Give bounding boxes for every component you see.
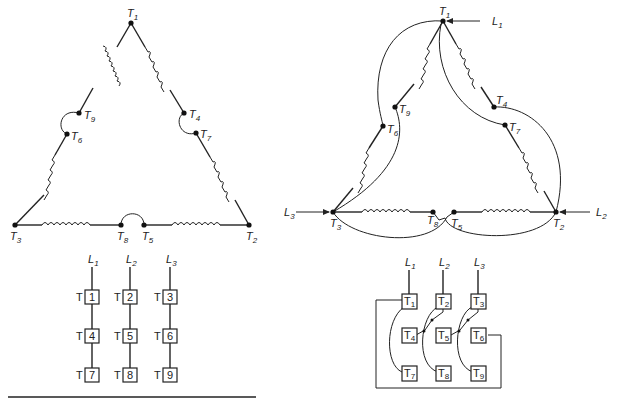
label-left-t2: T2 bbox=[246, 230, 258, 245]
label-left-t5: T5 bbox=[142, 230, 154, 245]
wiring-diagram: T1 T2 T3 T4 T5 T6 T7 T8 T9 L1 L2 L3 T T … bbox=[0, 0, 617, 403]
left-table-l2: L2 bbox=[126, 253, 137, 268]
terminal-5: 5 bbox=[127, 330, 133, 342]
t-prefix: T bbox=[154, 291, 161, 303]
label-left-t8: T8 bbox=[117, 230, 129, 245]
label-right-l3: L3 bbox=[284, 206, 295, 221]
left-connection-table: L1 L2 L3 T T T T T T T T T 1 4 7 2 5 8 3… bbox=[76, 253, 177, 382]
label-left-t3: T3 bbox=[10, 230, 22, 245]
t-prefix: T bbox=[154, 330, 161, 342]
label-left-t6: T6 bbox=[71, 130, 83, 145]
right-table-l1: L1 bbox=[405, 256, 416, 271]
label-right-t3: T3 bbox=[330, 217, 342, 232]
left-table-l3: L3 bbox=[166, 253, 177, 268]
label-right-t2: T2 bbox=[553, 217, 565, 232]
terminal-1: 1 bbox=[89, 291, 95, 303]
t-prefix: T bbox=[76, 369, 83, 381]
left-table-l1: L1 bbox=[88, 253, 99, 268]
terminal-6: 6 bbox=[167, 330, 173, 342]
label-left-t9: T9 bbox=[84, 109, 96, 124]
t-prefix: T bbox=[76, 330, 83, 342]
label-right-t5: T5 bbox=[451, 217, 463, 232]
t-prefix: T bbox=[76, 291, 83, 303]
terminal-4: 4 bbox=[89, 330, 95, 342]
label-right-l2: L2 bbox=[596, 206, 607, 221]
t-prefix: T bbox=[154, 369, 161, 381]
t-prefix: T bbox=[114, 330, 121, 342]
label-left-t4: T4 bbox=[189, 108, 201, 123]
label-right-l1: L1 bbox=[492, 15, 503, 30]
terminal-8: 8 bbox=[127, 369, 133, 381]
terminal-3: 3 bbox=[167, 291, 173, 303]
t-prefix: T bbox=[114, 291, 121, 303]
right-table-l3: L3 bbox=[474, 256, 485, 271]
terminal-9: 9 bbox=[167, 369, 173, 381]
left-delta: T1 T2 T3 T4 T5 T6 T7 T8 T9 bbox=[10, 7, 258, 245]
label-left-t7: T7 bbox=[200, 128, 212, 143]
label-left-t1: T1 bbox=[127, 7, 138, 22]
right-table-l2: L2 bbox=[439, 256, 450, 271]
terminal-7: 7 bbox=[89, 369, 95, 381]
right-connection-table: L1 L2 L3 T1 T2 T3 T4 T5 T6 T7 bbox=[376, 256, 501, 388]
label-right-t9: T9 bbox=[399, 103, 411, 118]
t-prefix: T bbox=[114, 369, 121, 381]
label-right-t1: T1 bbox=[439, 5, 450, 20]
label-right-t8: T8 bbox=[427, 214, 439, 229]
right-delta: L1 L2 L3 T1 T2 T3 T4 T5 T6 T7 T8 T9 bbox=[284, 5, 607, 238]
terminal-2: 2 bbox=[127, 291, 133, 303]
label-right-t6: T6 bbox=[387, 123, 399, 138]
